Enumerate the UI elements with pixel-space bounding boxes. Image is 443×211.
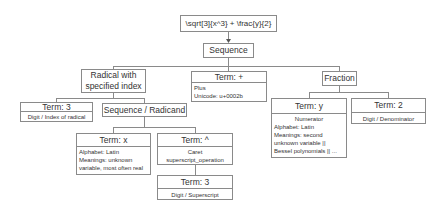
term-superscript-title: Term: 3: [158, 176, 232, 188]
term-denominator-node: Term: 2 Digit / Denominator: [351, 98, 426, 124]
fraction-node: Fraction: [322, 71, 357, 86]
term-superscript-body: Digit / Superscript: [158, 188, 232, 201]
sequence-radicand-label: Sequence / Radicand: [104, 105, 185, 116]
radical-node: Radical with specified index: [81, 69, 146, 93]
term-index-title: Term: 3: [21, 103, 92, 111]
term-plus-title: Term: +: [192, 72, 266, 82]
radical-label-line1: Radical with: [91, 70, 137, 81]
sequence-radicand-node: Sequence / Radicand: [102, 103, 187, 117]
term-y-node: Term: y Numerator Alphabet: Latin Meanin…: [271, 98, 347, 158]
radical-label-line2: specified index: [85, 81, 141, 92]
term-caret-node: Term: ^ Caret superscript_operation: [157, 133, 233, 165]
term-superscript-node: Term: 3 Digit / Superscript: [157, 175, 233, 200]
term-x-body-line: Meanings: unknown: [79, 156, 148, 164]
term-y-title: Term: y: [272, 99, 346, 113]
term-y-body-line: unknown variable ||: [274, 139, 344, 147]
term-denominator-title: Term: 2: [352, 99, 425, 112]
root-expression-node: \sqrt[3]{x^3} + \frac{y}{2}: [180, 15, 277, 32]
term-plus-node: Term: + Plus Unicode: u+0002b: [191, 71, 267, 102]
term-x-body-line: Alphabet: Latin: [79, 148, 148, 156]
root-expression-label: \sqrt[3]{x^3} + \frac{y}{2}: [186, 18, 272, 29]
term-index-body: Digit / Index of radical: [21, 111, 92, 122]
term-y-body-line: Bessel polynomials || ...: [274, 147, 344, 155]
term-x-node: Term: x Alphabet: Latin Meanings: unknow…: [76, 133, 151, 175]
expression-tree-diagram: \sqrt[3]{x^3} + \frac{y}{2} Sequence Rad…: [0, 0, 443, 211]
term-x-title: Term: x: [77, 134, 150, 146]
fraction-label: Fraction: [324, 73, 355, 84]
term-caret-body-line: Caret: [160, 148, 230, 156]
term-caret-title: Term: ^: [158, 134, 232, 146]
term-x-body-line: variable, most often real: [79, 164, 148, 172]
term-denominator-body: Digit / Denominator: [352, 112, 425, 125]
sequence-node: Sequence: [203, 43, 254, 58]
term-y-body-center: Numerator: [274, 115, 344, 123]
term-y-body-line: Alphabet: Latin: [274, 123, 344, 131]
term-caret-body-line: superscript_operation: [160, 156, 230, 164]
sequence-label: Sequence: [209, 45, 247, 56]
term-y-body-line: Meanings: second: [274, 131, 344, 139]
term-plus-body-line: Plus: [194, 84, 264, 92]
term-index-node: Term: 3 Digit / Index of radical: [20, 102, 93, 122]
term-plus-body-line: Unicode: u+0002b: [194, 92, 264, 100]
